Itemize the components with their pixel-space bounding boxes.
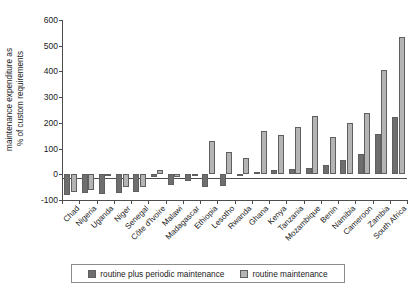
bar bbox=[192, 174, 198, 176]
bar bbox=[392, 117, 398, 174]
x-tick-mark bbox=[148, 200, 149, 204]
bar bbox=[271, 170, 277, 175]
chart-legend: routine plus periodic maintenanceroutine… bbox=[71, 264, 345, 283]
bar bbox=[330, 137, 336, 174]
y-tick-label: 300 bbox=[44, 92, 58, 102]
x-tick-mark bbox=[183, 200, 184, 204]
y-tick-mark bbox=[59, 123, 62, 124]
bar bbox=[220, 174, 226, 186]
y-tick-mark bbox=[59, 149, 62, 150]
x-tick-mark bbox=[373, 200, 374, 204]
y-tick-mark bbox=[59, 71, 62, 72]
x-tick-mark bbox=[79, 200, 80, 204]
y-tick-label: 600 bbox=[44, 15, 58, 25]
bar bbox=[82, 174, 88, 193]
x-tick-mark bbox=[166, 200, 167, 204]
bar bbox=[237, 174, 243, 176]
bar bbox=[209, 141, 215, 174]
bar bbox=[347, 123, 353, 174]
y-axis-title-line-2: % of custom requirements bbox=[15, 51, 26, 146]
y-axis-title-line-1: maintenance expenditure as bbox=[4, 48, 15, 151]
bar bbox=[226, 152, 232, 174]
legend-swatch-icon bbox=[88, 270, 96, 278]
x-tick-mark bbox=[355, 200, 356, 204]
legend-swatch-icon bbox=[240, 270, 248, 278]
bar bbox=[243, 158, 249, 174]
x-tick-mark bbox=[304, 200, 305, 204]
legend-entry: routine plus periodic maintenance bbox=[88, 269, 224, 279]
y-tick-mark bbox=[59, 20, 62, 21]
bar bbox=[399, 37, 405, 175]
bar bbox=[116, 174, 122, 193]
bar bbox=[323, 165, 329, 174]
legend-label: routine maintenance bbox=[252, 269, 327, 279]
zero-baseline bbox=[62, 178, 407, 179]
x-tick-mark bbox=[390, 200, 391, 204]
bar bbox=[64, 174, 70, 195]
y-tick-label: 200 bbox=[44, 118, 58, 128]
x-tick-mark bbox=[407, 200, 408, 204]
bar bbox=[358, 154, 364, 174]
bar bbox=[202, 174, 208, 187]
y-axis-title: maintenance expenditure as % of custom r… bbox=[2, 14, 28, 184]
y-tick-mark bbox=[59, 174, 62, 175]
x-tick-mark bbox=[114, 200, 115, 204]
x-tick-mark bbox=[235, 200, 236, 204]
y-tick-label: 0 bbox=[53, 169, 58, 179]
plot-area: -1000100200300400500600 bbox=[62, 20, 407, 200]
x-tick-mark bbox=[200, 200, 201, 204]
y-tick-label: -100 bbox=[41, 195, 58, 205]
x-tick-mark bbox=[131, 200, 132, 204]
bar bbox=[174, 174, 180, 177]
bar bbox=[278, 135, 284, 174]
chart-figure: maintenance expenditure as % of custom r… bbox=[0, 0, 413, 292]
bar bbox=[340, 160, 346, 174]
y-axis-line bbox=[62, 20, 63, 200]
bar bbox=[295, 127, 301, 175]
bar bbox=[71, 174, 77, 191]
bar bbox=[151, 174, 157, 177]
legend-entry: routine maintenance bbox=[240, 269, 327, 279]
bar bbox=[254, 172, 260, 175]
x-tick-mark bbox=[97, 200, 98, 204]
bar bbox=[105, 174, 111, 176]
bar bbox=[185, 174, 191, 181]
bar bbox=[140, 174, 146, 186]
bar bbox=[289, 169, 295, 175]
x-tick-mark bbox=[321, 200, 322, 204]
x-tick-mark bbox=[217, 200, 218, 204]
y-tick-mark bbox=[59, 97, 62, 98]
bar bbox=[381, 70, 387, 174]
x-tick-mark bbox=[252, 200, 253, 204]
y-tick-label: 500 bbox=[44, 41, 58, 51]
bar bbox=[123, 174, 129, 187]
bar bbox=[364, 113, 370, 175]
y-tick-label: 400 bbox=[44, 66, 58, 76]
bar bbox=[168, 174, 174, 185]
bar bbox=[375, 134, 381, 174]
y-tick-label: 100 bbox=[44, 144, 58, 154]
bar bbox=[306, 168, 312, 174]
bar bbox=[157, 170, 163, 175]
bar bbox=[312, 116, 318, 174]
y-tick-mark bbox=[59, 46, 62, 47]
x-tick-mark bbox=[62, 200, 63, 204]
bar bbox=[99, 174, 105, 193]
bar bbox=[261, 131, 267, 175]
bar bbox=[88, 174, 94, 189]
x-tick-mark bbox=[338, 200, 339, 204]
bar bbox=[133, 174, 139, 192]
x-tick-mark bbox=[286, 200, 287, 204]
legend-label: routine plus periodic maintenance bbox=[100, 269, 224, 279]
x-tick-mark bbox=[269, 200, 270, 204]
